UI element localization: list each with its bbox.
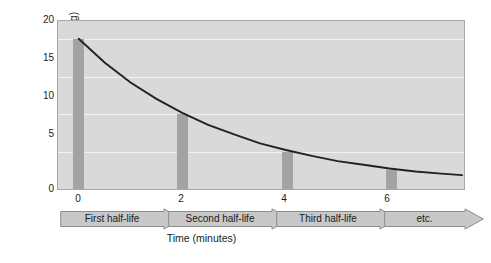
arrow-label-first: First half-life bbox=[60, 208, 164, 230]
x-tick-6: 6 bbox=[375, 192, 399, 205]
y-axis-tick-labels: 20 15 10 5 0 bbox=[31, 0, 54, 263]
arrow-etc: etc. bbox=[384, 208, 484, 230]
arrow-first-half-life: First half-life bbox=[60, 208, 183, 230]
y-tick-20: 20 bbox=[32, 14, 54, 26]
arrow-second-half-life: Second half-life bbox=[168, 208, 291, 230]
y-tick-15: 15 bbox=[32, 52, 54, 64]
decay-chart-figure: Mass158O (mg) 20 15 10 5 0 0 2 4 6 bbox=[0, 0, 491, 263]
arrow-third-half-life: Third half-life bbox=[276, 208, 399, 230]
x-axis-title-text: Time (minutes) bbox=[167, 232, 237, 244]
x-tick-4: 4 bbox=[272, 192, 296, 205]
y-tick-5: 5 bbox=[32, 128, 54, 140]
y-tick-10: 10 bbox=[32, 90, 54, 102]
x-tick-2: 2 bbox=[169, 192, 193, 205]
decay-curve bbox=[58, 21, 464, 189]
arrow-label-etc: etc. bbox=[384, 208, 465, 230]
arrow-label-second: Second half-life bbox=[168, 208, 272, 230]
plot-area bbox=[57, 20, 465, 190]
x-axis-tick-labels: 0 2 4 6 bbox=[0, 192, 491, 206]
x-tick-0: 0 bbox=[66, 192, 90, 205]
arrow-label-third: Third half-life bbox=[276, 208, 380, 230]
x-axis-title: Time (minutes) bbox=[0, 232, 491, 244]
